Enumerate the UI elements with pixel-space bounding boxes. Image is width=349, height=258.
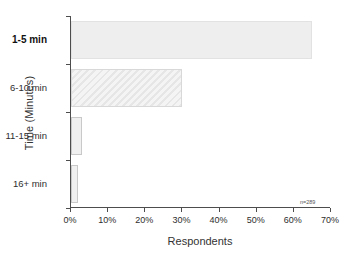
bar-1-5-min [71, 21, 312, 59]
y-tick-label: 11-15 min [0, 130, 47, 141]
bar-6-10-min [71, 69, 182, 107]
x-tick [144, 208, 145, 212]
x-tick-label: 30% [172, 215, 190, 225]
y-tick [66, 160, 71, 161]
x-tick [256, 208, 257, 212]
x-tick [219, 208, 220, 212]
x-tick-label: 50% [247, 215, 265, 225]
y-axis-title: Time (Minutes) [23, 43, 35, 183]
x-tick-label: 70% [321, 215, 339, 225]
x-tick [330, 208, 331, 212]
bar-chart: Time (Minutes) 1-5 min6-10 min11-15 min1… [0, 0, 349, 258]
x-axis-title: Respondents [70, 235, 330, 247]
bar-rect [71, 117, 82, 155]
plot-area: 1-5 min6-10 min11-15 min16+ min 0%10%20%… [70, 16, 330, 208]
sample-size-annotation: n=289 [300, 199, 315, 205]
bar-16-min [71, 165, 78, 203]
bar-11-15-min [71, 117, 82, 155]
x-tick-label: 0% [63, 215, 76, 225]
y-tick-label: 1-5 min [0, 34, 47, 45]
x-tick [70, 208, 71, 212]
x-axis-line [70, 207, 330, 208]
y-tick [66, 64, 71, 65]
y-tick [66, 16, 71, 17]
x-tick-label: 10% [98, 215, 116, 225]
y-tick-label: 16+ min [0, 178, 47, 189]
bar-rect [71, 69, 182, 107]
x-tick-label: 20% [135, 215, 153, 225]
x-tick [293, 208, 294, 212]
x-tick [107, 208, 108, 212]
bar-rect [71, 21, 312, 59]
y-tick-label: 6-10 min [0, 82, 47, 93]
x-tick-label: 40% [210, 215, 228, 225]
bar-rect [71, 165, 78, 203]
y-tick [66, 112, 71, 113]
x-tick-label: 60% [284, 215, 302, 225]
x-tick [181, 208, 182, 212]
